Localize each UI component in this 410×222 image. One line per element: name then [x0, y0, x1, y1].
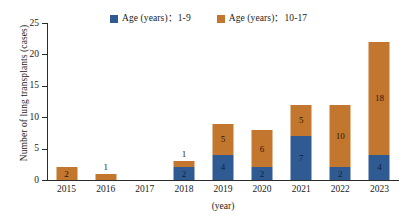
y-axis-tick-label: 10 [30, 111, 40, 123]
bar-segment-age-10-17[interactable]: 1 [173, 161, 194, 167]
bar-stack[interactable]: 26 [252, 130, 273, 180]
legend-swatch-blue-icon [110, 15, 118, 23]
bar-stack[interactable]: 45 [212, 124, 233, 181]
bar-value-label: 10 [330, 131, 351, 141]
bar-value-label: 4 [369, 162, 390, 172]
x-axis-tick-label: 2021 [292, 183, 311, 196]
bar-value-label: 2 [173, 169, 194, 179]
bar-group[interactable]: 210 [321, 23, 360, 180]
plot-area: 0510152025 2121452675210418 [47, 23, 399, 180]
bar-stack[interactable]: 418 [369, 42, 390, 180]
bar-group[interactable] [125, 23, 164, 180]
x-axis-tick-label: 2019 [214, 183, 233, 196]
x-axis-title: (year) [47, 200, 399, 213]
bar-segment-age-10-17[interactable]: 5 [212, 124, 233, 155]
bar-value-label: 1 [173, 149, 194, 159]
bar-group[interactable]: 1 [86, 23, 125, 180]
bar-value-label: 5 [291, 115, 312, 125]
legend-swatch-orange-icon [217, 15, 225, 23]
bar-segment-age-1-9[interactable]: 2 [330, 167, 351, 180]
bar-stack[interactable]: 2 [56, 167, 77, 180]
bar-segment-age-10-17[interactable]: 1 [95, 174, 116, 180]
y-axis-tick-label: 20 [30, 48, 40, 60]
legend-label-age-10-17: Age (years)：10-17 [229, 14, 307, 24]
bar-segment-age-1-9[interactable]: 2 [252, 167, 273, 180]
bar-segment-age-1-9[interactable]: 4 [369, 155, 390, 180]
bar-segment-age-10-17[interactable]: 2 [56, 167, 77, 180]
bar-stack[interactable]: 21 [173, 161, 194, 180]
bar-stack[interactable]: 75 [291, 105, 312, 180]
legend-item-age-10-17[interactable]: Age (years)：10-17 [217, 14, 307, 24]
bar-segment-age-1-9[interactable]: 4 [212, 155, 233, 180]
bar-group[interactable]: 26 [243, 23, 282, 180]
bar-segment-age-10-17[interactable]: 18 [369, 42, 390, 155]
bar-value-label: 7 [291, 153, 312, 163]
bar-group[interactable]: 21 [164, 23, 203, 180]
y-axis-tick-label: 25 [30, 17, 40, 29]
bar-value-label: 18 [369, 93, 390, 103]
bar-value-label: 5 [212, 134, 233, 144]
bar-value-label: 6 [252, 144, 273, 154]
y-axis-tick-label: 5 [34, 142, 39, 154]
y-axis-tick: 0 [42, 180, 47, 181]
x-axis-tick-label: 2016 [96, 183, 115, 196]
x-axis-tick-labels: 201520162017201820192020202120222023 [47, 183, 399, 197]
bar-group[interactable]: 45 [203, 23, 242, 180]
legend-item-age-1-9[interactable]: Age (years)：1-9 [110, 14, 191, 24]
y-axis-tick-label: 0 [34, 174, 39, 186]
bar-value-label: 4 [212, 162, 233, 172]
x-axis-tick-label: 2015 [57, 183, 76, 196]
bar-value-label: 1 [95, 162, 116, 172]
bar-value-label: 2 [330, 169, 351, 179]
bar-stack[interactable]: 1 [95, 174, 116, 180]
bar-segment-age-10-17[interactable]: 10 [330, 105, 351, 168]
bar-segment-age-1-9[interactable]: 7 [291, 136, 312, 180]
y-axis-tick-label: 15 [30, 79, 40, 91]
bar-stack[interactable]: 210 [330, 105, 351, 180]
bar-segment-age-10-17[interactable]: 6 [252, 130, 273, 168]
bar-group[interactable]: 75 [282, 23, 321, 180]
x-axis-line [47, 180, 399, 181]
stacked-bar-chart: Age (years)：1-9 Age (years)：10-17 Number… [0, 0, 410, 222]
legend-label-age-1-9: Age (years)：1-9 [122, 14, 191, 24]
x-axis-tick-label: 2023 [370, 183, 389, 196]
y-axis-title: Number of lung transplants (cases) [19, 3, 29, 183]
bar-series-container: 2121452675210418 [47, 23, 399, 180]
x-axis-tick-label: 2018 [174, 183, 193, 196]
bar-segment-age-1-9[interactable]: 2 [173, 167, 194, 180]
bar-value-label: 2 [56, 169, 77, 179]
bar-group[interactable]: 418 [360, 23, 399, 180]
bar-value-label: 2 [252, 169, 273, 179]
x-axis-tick-label: 2020 [253, 183, 272, 196]
bar-group[interactable]: 2 [47, 23, 86, 180]
x-axis-tick-label: 2017 [135, 183, 154, 196]
bar-segment-age-10-17[interactable]: 5 [291, 105, 312, 136]
x-axis-tick-label: 2022 [331, 183, 350, 196]
